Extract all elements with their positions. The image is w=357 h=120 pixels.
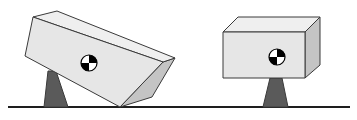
- level-block-front-face: [223, 32, 305, 78]
- diagram-canvas: [0, 0, 357, 120]
- right-fulcrum-icon: [263, 78, 288, 107]
- level-block: [223, 17, 320, 107]
- balance-diagram: Two rectangular blocks resting on triang…: [0, 0, 357, 120]
- level-block-top-face: [223, 17, 320, 32]
- tilted-block: [25, 11, 175, 107]
- center-of-gravity-icon: [81, 55, 97, 71]
- center-of-gravity-icon: [269, 49, 285, 65]
